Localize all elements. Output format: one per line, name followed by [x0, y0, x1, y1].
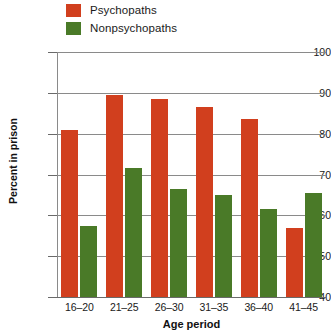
bar-groups: [57, 52, 326, 297]
x-tick-label: 41–45: [281, 301, 326, 313]
bar: [305, 193, 322, 297]
bar-group: [57, 52, 102, 297]
bar-chart: Psychopaths Nonpsychopaths 4050607080901…: [0, 0, 331, 333]
bar: [196, 107, 213, 297]
legend-item-psychopaths: Psychopaths: [66, 2, 246, 19]
y-tick-60: [48, 215, 57, 216]
bar: [286, 228, 303, 297]
x-tick-label: 21–25: [102, 301, 147, 313]
bar: [80, 226, 97, 297]
bar-group: [236, 52, 281, 297]
x-tick-label: 16–20: [57, 301, 102, 313]
y-tick-50: [48, 256, 57, 257]
bar: [241, 119, 258, 297]
y-tick-80: [48, 134, 57, 135]
x-tick-label: 26–30: [147, 301, 192, 313]
bar-group: [147, 52, 192, 297]
bar: [61, 130, 78, 297]
y-tick-100: [48, 52, 57, 53]
legend-swatch-psychopaths: [66, 4, 81, 17]
bar: [215, 195, 232, 297]
y-tick-40: [48, 297, 57, 298]
legend-swatch-nonpsychopaths: [66, 22, 81, 35]
plot-area: [57, 52, 326, 297]
bar: [170, 189, 187, 297]
x-axis-tick-labels: 16–2021–2526–3031–3536–4041–45: [57, 301, 326, 313]
y-tick-70: [48, 175, 57, 176]
chart-legend: Psychopaths Nonpsychopaths: [66, 2, 246, 38]
bar: [106, 95, 123, 297]
y-axis-title: Percent in prison: [7, 96, 19, 226]
legend-item-nonpsychopaths: Nonpsychopaths: [66, 20, 246, 37]
x-tick-label: 31–35: [191, 301, 236, 313]
bar-group: [191, 52, 236, 297]
legend-label-psychopaths: Psychopaths: [90, 4, 157, 17]
x-tick-label: 36–40: [236, 301, 281, 313]
bar: [151, 99, 168, 297]
y-tick-90: [48, 93, 57, 94]
gridline-40: [57, 297, 326, 298]
legend-label-nonpsychopaths: Nonpsychopaths: [90, 22, 177, 35]
bar: [125, 168, 142, 297]
bar-group: [281, 52, 326, 297]
bar-group: [102, 52, 147, 297]
bar: [260, 209, 277, 297]
x-axis-title: Age period: [57, 318, 326, 330]
